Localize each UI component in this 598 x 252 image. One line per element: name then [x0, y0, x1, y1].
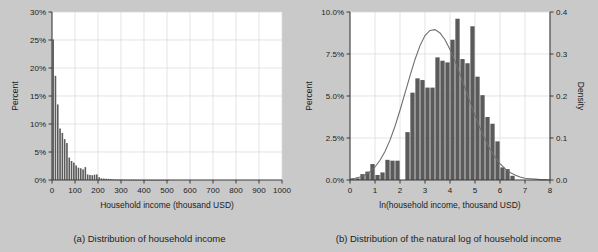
- bar: [410, 93, 414, 180]
- x-axis-title: Household income (thousand USD): [100, 200, 234, 210]
- y-axis-title: Percent: [10, 81, 20, 111]
- panel-b-log-household-income: 0123456780.0%2.5%5.0%7.5%10.0%0.00.10.20…: [299, 0, 598, 252]
- x-tick-label: 2: [398, 186, 403, 195]
- y2-tick-label: 0.1: [556, 134, 568, 143]
- x-tick-label: 400: [137, 186, 151, 195]
- bar: [465, 63, 469, 180]
- x-axis-title: ln(household income, thousand USD): [379, 200, 520, 210]
- bar: [80, 168, 82, 180]
- y-tick-label: 10.0%: [321, 8, 344, 17]
- x-tick-label: 6: [498, 186, 503, 195]
- bar: [55, 76, 57, 180]
- bar: [66, 143, 68, 180]
- y2-tick-label: 0.3: [556, 50, 568, 59]
- bar: [485, 117, 489, 180]
- chart-a-svg: 010020030040050060070080090010000%5%10%1…: [0, 0, 299, 222]
- panel-a-caption: (a) Distribution of household income: [0, 233, 299, 244]
- y-tick-label: 7.5%: [326, 50, 344, 59]
- bar: [440, 61, 444, 180]
- bar: [450, 40, 454, 180]
- x-tick-label: 0: [50, 186, 55, 195]
- y2-tick-label: 0.2: [556, 92, 568, 101]
- bar: [71, 161, 73, 180]
- bar: [73, 163, 75, 180]
- figure-container: 010020030040050060070080090010000%5%10%1…: [0, 0, 598, 252]
- bar: [91, 175, 93, 180]
- x-tick-label: 5: [473, 186, 478, 195]
- x-tick-label: 1: [373, 186, 378, 195]
- y-tick-label: 25%: [30, 36, 46, 45]
- y-tick-label: 20%: [30, 64, 46, 73]
- y-tick-label: 0.0%: [326, 176, 344, 185]
- bar: [455, 19, 459, 180]
- bar: [370, 164, 374, 180]
- panel-b-caption: (b) Distribution of the natural log of h…: [299, 233, 598, 244]
- x-tick-label: 600: [183, 186, 197, 195]
- y-tick-label: 30%: [30, 8, 46, 17]
- bar: [500, 167, 504, 180]
- y-tick-label: 0%: [34, 176, 46, 185]
- y2-tick-label: 0.0: [556, 176, 568, 185]
- bar: [68, 158, 70, 180]
- y-tick-label: 2.5%: [326, 134, 344, 143]
- bar: [85, 167, 87, 180]
- y-tick-label: 10%: [30, 120, 46, 129]
- bar: [490, 124, 494, 180]
- bar: [390, 161, 394, 180]
- x-tick-label: 900: [252, 186, 266, 195]
- y-tick-label: 15%: [30, 92, 46, 101]
- bar: [475, 77, 479, 180]
- y-axis-title: Percent: [304, 81, 314, 111]
- chart-b-svg: 0123456780.0%2.5%5.0%7.5%10.0%0.00.10.20…: [299, 0, 598, 222]
- x-tick-label: 500: [160, 186, 174, 195]
- bar: [445, 62, 449, 180]
- bar: [375, 175, 379, 180]
- bar: [96, 174, 98, 180]
- bar: [82, 169, 84, 180]
- x-tick-label: 4: [448, 186, 453, 195]
- bar: [94, 175, 96, 180]
- x-tick-label: 700: [206, 186, 220, 195]
- bar: [385, 160, 389, 180]
- y2-tick-label: 0.4: [556, 8, 568, 17]
- bar: [87, 174, 89, 180]
- x-tick-label: 7: [523, 186, 528, 195]
- x-tick-label: 300: [114, 186, 128, 195]
- y-tick-label: 5.0%: [326, 92, 344, 101]
- bar: [75, 165, 77, 180]
- bar: [435, 57, 439, 180]
- bar: [420, 80, 424, 180]
- bar: [395, 161, 399, 180]
- bar: [64, 139, 66, 180]
- bar: [425, 88, 429, 180]
- bar: [62, 133, 64, 180]
- x-tick-label: 3: [423, 186, 428, 195]
- bar: [78, 168, 80, 180]
- x-tick-label: 1000: [273, 186, 291, 195]
- bar: [415, 78, 419, 180]
- bar: [380, 172, 384, 180]
- bar: [405, 132, 409, 180]
- x-tick-label: 100: [68, 186, 82, 195]
- y-tick-label: 5%: [34, 148, 46, 157]
- x-tick-label: 0: [348, 186, 353, 195]
- x-tick-label: 200: [91, 186, 105, 195]
- y2-axis-title: Density: [576, 82, 586, 111]
- bar: [510, 176, 514, 180]
- bar: [59, 128, 61, 180]
- x-tick-label: 8: [548, 186, 553, 195]
- bar: [52, 39, 54, 180]
- x-tick-label: 800: [229, 186, 243, 195]
- bar: [430, 88, 434, 180]
- panel-a-household-income: 010020030040050060070080090010000%5%10%1…: [0, 0, 299, 252]
- bar: [57, 104, 59, 180]
- bar: [89, 175, 91, 180]
